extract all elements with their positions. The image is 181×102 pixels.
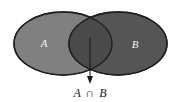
set-a-label: A: [40, 37, 48, 49]
set-b-label: B: [132, 38, 139, 50]
intersection-caption: A ∩ B: [72, 86, 107, 100]
venn-diagram-canvas: A B A ∩ B: [0, 0, 181, 102]
caption-operand-b: B: [99, 86, 107, 100]
caption-intersection-operator: ∩: [86, 86, 95, 100]
annotation-arrow-head: [87, 76, 93, 84]
venn-diagram-figure: A B A ∩ B: [0, 0, 181, 102]
caption-operand-a: A: [72, 86, 81, 100]
